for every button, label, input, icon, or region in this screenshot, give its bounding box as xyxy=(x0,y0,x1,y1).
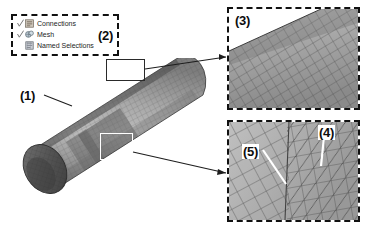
detail-panel-3: (3) xyxy=(227,7,360,110)
panel-4-mesh xyxy=(229,122,358,220)
leader-arrow-top xyxy=(219,54,226,60)
leader-line-top xyxy=(145,57,226,69)
figure-canvas: Connections Mesh Named Selections (2) xyxy=(0,0,366,230)
leader-arrow-bottom xyxy=(217,169,226,175)
annotation-label-5: (5) xyxy=(242,144,259,159)
detail-panel-4: (4) (5) xyxy=(227,120,360,222)
leader-line-bottom xyxy=(133,152,226,173)
leader-line-1 xyxy=(44,95,72,106)
annotation-label-4: (4) xyxy=(318,125,335,140)
annotation-label-3: (3) xyxy=(234,13,251,28)
